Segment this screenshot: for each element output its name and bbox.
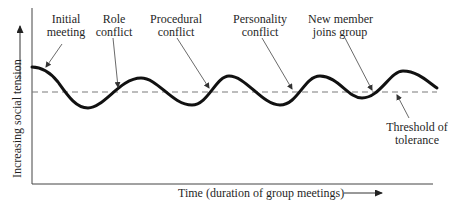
annotation-arrows xyxy=(46,38,409,118)
arrow-procedural-conflict xyxy=(177,38,209,88)
label-line2: tolerance xyxy=(386,134,448,147)
label-new-member: New member joins group xyxy=(308,13,372,39)
label-line2: meeting xyxy=(46,26,86,39)
arrow-role-conflict xyxy=(113,38,118,87)
label-procedural-conflict: Procedural conflict xyxy=(148,13,204,39)
label-line2: joins group xyxy=(308,26,372,39)
arrow-initial-meeting xyxy=(46,44,62,67)
arrow-new-member xyxy=(345,38,372,90)
x-axis-label: Time (duration of group meetings) xyxy=(178,186,344,201)
label-line2: conflict xyxy=(232,26,288,39)
social-tension-diagram: Initial meeting Role conflict Procedural… xyxy=(0,0,455,201)
label-initial-meeting: Initial meeting xyxy=(46,13,86,39)
label-threshold: Threshold of tolerance xyxy=(386,121,448,147)
label-line2: conflict xyxy=(93,26,135,39)
arrow-threshold xyxy=(397,95,409,118)
arrow-personality-conflict xyxy=(262,38,292,89)
label-personality-conflict: Personality conflict xyxy=(232,13,288,39)
label-role-conflict: Role conflict xyxy=(93,13,135,39)
y-axis-label: Increasing social tension xyxy=(10,59,25,178)
label-line2: conflict xyxy=(148,26,204,39)
tension-curve xyxy=(32,67,437,108)
